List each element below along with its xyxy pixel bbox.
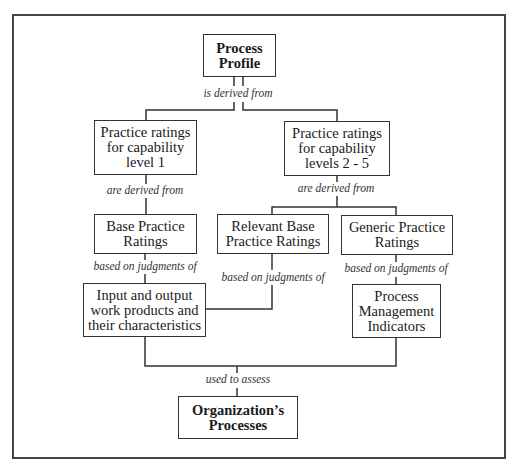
node-process-management-indicators: Process Management Indicators xyxy=(352,284,441,338)
node-label: Process Profile xyxy=(216,41,262,71)
node-base-practice-ratings: Base Practice Ratings xyxy=(94,214,197,254)
node-label: Generic Practice Ratings xyxy=(349,220,445,250)
node-organizations-processes: Organization’s Processes xyxy=(178,396,298,439)
node-practice-ratings-levels-2-5: Practice ratings for capability levels 2… xyxy=(284,121,390,176)
node-label: Organization’s Processes xyxy=(192,403,284,433)
node-label: Practice ratings for capability levels 2… xyxy=(292,126,382,171)
edge-label-based-on-base: based on judgments of xyxy=(91,260,198,272)
node-input-output-work-products: Input and output work products and their… xyxy=(83,283,206,337)
node-process-profile: Process Profile xyxy=(203,34,276,77)
edge-label-based-on-relevant: based on judgments of xyxy=(219,271,326,283)
node-label: Practice ratings for capability level 1 xyxy=(101,125,191,170)
node-label: Base Practice Ratings xyxy=(106,219,185,249)
node-label: Input and output work products and their… xyxy=(88,288,201,333)
node-label: Relevant Base Practice Ratings xyxy=(226,219,321,249)
node-relevant-base-practice-ratings: Relevant Base Practice Ratings xyxy=(217,214,329,254)
edge-label-based-on-generic: based on judgments of xyxy=(342,262,449,274)
node-label: Process Management Indicators xyxy=(359,289,435,334)
node-practice-ratings-level-1: Practice ratings for capability level 1 xyxy=(94,120,197,175)
edge-label-are-derived-from-left: are derived from xyxy=(105,184,185,196)
edge-label-used-to-assess: used to assess xyxy=(204,373,273,385)
edge-label-are-derived-from-right: are derived from xyxy=(296,182,376,194)
edge-label-is-derived-from: is derived from xyxy=(201,87,274,99)
node-generic-practice-ratings: Generic Practice Ratings xyxy=(341,215,453,255)
